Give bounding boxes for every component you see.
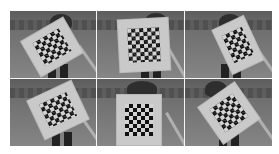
calibration-image-grid (10, 11, 270, 145)
photo-panel-3 (185, 11, 272, 78)
checkerboard-pattern (209, 93, 248, 132)
checkerboard-pattern (222, 26, 255, 63)
checkerboard-target (118, 18, 171, 73)
checkerboard-pattern (125, 104, 153, 136)
photo-panel-5 (97, 79, 184, 146)
checkerboard-pattern (38, 91, 77, 128)
photo-panel-1 (10, 11, 96, 78)
photo-panel-2 (97, 11, 184, 78)
checkerboard-target (117, 95, 161, 145)
photo-panel-4 (10, 79, 96, 146)
checkerboard-pattern (32, 28, 71, 66)
photo-panel-6 (185, 79, 272, 146)
checkerboard-pattern (127, 28, 161, 63)
